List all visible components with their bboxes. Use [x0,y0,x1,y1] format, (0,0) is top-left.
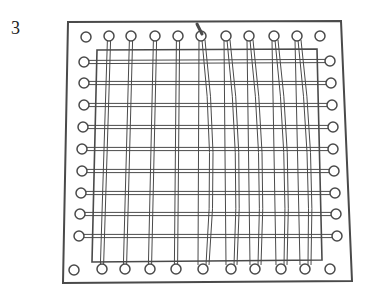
right-peg [329,166,339,176]
left-peg [79,57,89,67]
right-peg [328,144,338,154]
bottom-peg [250,264,260,274]
top-peg [292,31,302,41]
top-peg [269,31,279,41]
top-peg [221,31,231,41]
right-peg [326,78,336,88]
bottom-peg [226,264,236,274]
left-peg [79,78,89,88]
left-peg [75,209,85,219]
left-peg [77,144,87,154]
bottom-peg [198,264,208,274]
left-peg [78,122,88,132]
top-peg [315,31,325,41]
top-peg [126,31,136,41]
bottom-peg [97,264,107,274]
bottom-peg [145,264,155,274]
top-peg [104,31,114,41]
right-peg [331,209,341,219]
left-peg [77,166,87,176]
top-peg [244,31,254,41]
right-peg [325,56,335,66]
peg-loom-illustration [0,0,369,304]
bottom-peg [171,264,181,274]
bottom-peg [325,264,335,274]
top-peg [81,32,91,42]
bottom-peg [120,264,130,274]
right-peg [332,231,342,241]
bottom-peg [69,265,79,275]
left-peg [74,231,84,241]
bottom-peg [300,264,310,274]
top-peg [173,31,183,41]
right-peg [328,122,338,132]
left-peg [76,188,86,198]
bottom-peg [276,264,286,274]
right-peg [327,100,337,110]
left-peg [79,100,89,110]
top-peg [150,31,160,41]
right-peg [330,188,340,198]
